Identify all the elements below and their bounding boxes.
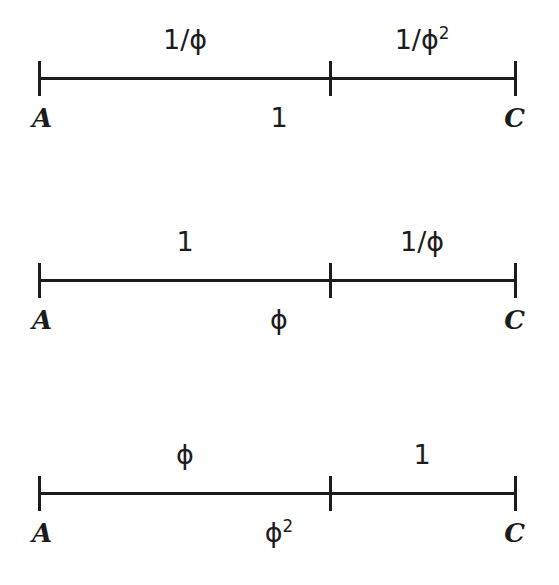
segment-diagram-1: 1/ϕ 1/ϕ2 A 1 C	[0, 0, 559, 140]
diagram-3-right-segment-text: 1	[413, 439, 430, 470]
diagram-3-left-segment-label: ϕ	[176, 441, 194, 468]
diagram-2-left-tick	[38, 263, 41, 298]
diagram-1-right-segment-label: 1/ϕ2	[395, 26, 450, 53]
diagram-1-left-segment-text: 1/ϕ	[163, 24, 207, 55]
diagram-1-start-point-label: A	[32, 105, 52, 131]
diagram-2-right-segment-label: 1/ϕ	[400, 228, 444, 255]
diagram-3-left-segment-text: ϕ	[176, 439, 194, 470]
diagram-1-end-point-label: C	[504, 105, 525, 131]
diagram-2-start-point-label: A	[32, 307, 52, 333]
diagram-1-total-label: 1	[270, 104, 287, 131]
figure-root: 1/ϕ 1/ϕ2 A 1 C 1 1/ϕ A ϕ C	[0, 0, 559, 585]
diagram-1-divider-tick	[329, 61, 332, 96]
diagram-2-right-tick	[514, 263, 517, 298]
diagram-2-total-label: ϕ	[270, 306, 288, 333]
diagram-1-left-tick	[38, 61, 41, 96]
diagram-3-axis-line	[38, 492, 516, 495]
diagram-1-right-segment-exponent: 2	[439, 23, 450, 43]
diagram-2-axis-line	[38, 279, 516, 282]
diagram-3-right-segment-label: 1	[413, 441, 430, 468]
diagram-2-right-segment-text: 1/ϕ	[400, 226, 444, 257]
diagram-1-right-segment-text: 1/ϕ	[395, 24, 439, 55]
diagram-2-left-segment-label: 1	[176, 228, 193, 255]
diagram-3-right-tick	[514, 476, 517, 511]
diagram-3-total-exponent: 2	[283, 516, 294, 536]
diagram-3-total-label: ϕ2	[265, 519, 293, 546]
diagram-2-left-segment-text: 1	[176, 226, 193, 257]
diagram-3-total-text: ϕ	[265, 517, 283, 548]
segment-diagram-2: 1 1/ϕ A ϕ C	[0, 202, 559, 342]
diagram-2-end-point-label: C	[504, 307, 525, 333]
diagram-2-total-text: ϕ	[270, 304, 288, 335]
diagram-1-total-text: 1	[270, 102, 287, 133]
segment-diagram-3: ϕ 1 A ϕ2 C	[0, 415, 559, 555]
diagram-3-start-point-label: A	[32, 520, 52, 546]
diagram-1-right-tick	[514, 61, 517, 96]
diagram-1-left-segment-label: 1/ϕ	[163, 26, 207, 53]
diagram-3-divider-tick	[329, 476, 332, 511]
diagram-2-divider-tick	[329, 263, 332, 298]
diagram-3-left-tick	[38, 476, 41, 511]
diagram-1-axis-line	[38, 77, 516, 80]
diagram-3-end-point-label: C	[504, 520, 525, 546]
